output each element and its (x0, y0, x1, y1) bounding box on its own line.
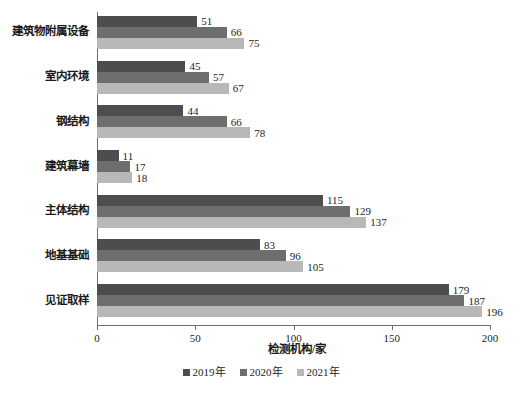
x-axis-title: 检测机构/家 (0, 340, 522, 356)
bar[interactable]: 11 (97, 150, 119, 161)
bar[interactable]: 57 (97, 72, 209, 83)
legend-item[interactable]: 2019年 (183, 366, 226, 378)
bar[interactable]: 17 (97, 161, 130, 172)
bar-value-label: 137 (370, 216, 387, 228)
bar-group: 见证取样179187196 (97, 284, 490, 317)
category-label: 见证取样 (45, 294, 89, 307)
x-tick-mark (195, 325, 196, 330)
bar-value-label: 11 (123, 149, 134, 161)
legend-swatch-icon (297, 369, 304, 376)
bar-value-label: 66 (231, 26, 242, 38)
bar[interactable]: 137 (97, 217, 366, 228)
bar[interactable]: 196 (97, 306, 482, 317)
bar-row: 137 (97, 217, 490, 228)
legend-item[interactable]: 2020年 (240, 366, 283, 378)
bar-value-label: 78 (254, 127, 265, 139)
category-label: 建筑幕墙 (45, 160, 89, 173)
x-tick-mark (294, 325, 295, 330)
bar-group: 钢结构446678 (97, 105, 490, 138)
category-label: 建筑物附属设备 (12, 25, 89, 38)
bar[interactable]: 66 (97, 27, 227, 38)
bar-value-label: 57 (213, 71, 224, 83)
bar-row: 44 (97, 105, 490, 116)
legend-label: 2019年 (193, 366, 226, 378)
bar[interactable]: 96 (97, 250, 286, 261)
bar[interactable]: 75 (97, 38, 244, 49)
bar-value-label: 66 (231, 116, 242, 128)
category-label: 钢结构 (56, 115, 89, 128)
bar-value-label: 51 (201, 15, 212, 27)
bar-row: 67 (97, 83, 490, 94)
bar-value-label: 187 (468, 294, 485, 306)
bar-row: 78 (97, 127, 490, 138)
bar-row: 75 (97, 38, 490, 49)
bar-row: 115 (97, 195, 490, 206)
bar-group: 建筑幕墙111718 (97, 150, 490, 183)
bar-value-label: 83 (264, 239, 275, 251)
bar-row: 66 (97, 27, 490, 38)
x-tick-mark (490, 325, 491, 330)
legend-label: 2021年 (307, 366, 340, 378)
bar-row: 17 (97, 161, 490, 172)
x-tick-mark (392, 325, 393, 330)
bar-value-label: 44 (187, 105, 198, 117)
bar-value-label: 18 (136, 171, 147, 183)
plot-area: 050100150200 建筑物附属设备516675室内环境455767钢结构4… (97, 12, 490, 325)
bar[interactable]: 83 (97, 239, 260, 250)
bar-value-label: 45 (189, 60, 200, 72)
legend-swatch-icon (240, 369, 247, 376)
bar[interactable]: 44 (97, 105, 183, 116)
bar-group: 建筑物附属设备516675 (97, 16, 490, 49)
bar[interactable]: 129 (97, 206, 350, 217)
category-label: 主体结构 (45, 204, 89, 217)
bar[interactable]: 51 (97, 16, 197, 27)
x-axis-title-text: 检测机构/家 (268, 343, 326, 355)
category-label: 地基基础 (45, 249, 89, 262)
bar-value-label: 105 (307, 261, 324, 273)
bar-value-label: 67 (233, 82, 244, 94)
bar[interactable]: 78 (97, 127, 250, 138)
bar-row: 105 (97, 261, 490, 272)
bar[interactable]: 67 (97, 83, 229, 94)
bar-row: 187 (97, 295, 490, 306)
bar-row: 66 (97, 116, 490, 127)
bar-value-label: 115 (327, 194, 343, 206)
bar-row: 179 (97, 284, 490, 295)
bar-value-label: 129 (354, 205, 371, 217)
bar-row: 96 (97, 250, 490, 261)
bar-value-label: 196 (486, 305, 503, 317)
bar-value-label: 75 (248, 37, 259, 49)
category-label: 室内环境 (45, 70, 89, 83)
bar[interactable]: 105 (97, 261, 303, 272)
bar-chart: 050100150200 建筑物附属设备516675室内环境455767钢结构4… (0, 0, 522, 397)
legend-item[interactable]: 2021年 (297, 366, 340, 378)
bar-value-label: 96 (290, 250, 301, 262)
x-tick-mark (97, 325, 98, 330)
bar-row: 51 (97, 16, 490, 27)
bar-group: 地基基础8396105 (97, 239, 490, 272)
legend-swatch-icon (183, 369, 190, 376)
bar-row: 45 (97, 61, 490, 72)
legend-label: 2020年 (250, 366, 283, 378)
bar-row: 11 (97, 150, 490, 161)
bar[interactable]: 66 (97, 116, 227, 127)
bar[interactable]: 45 (97, 61, 185, 72)
bar-row: 196 (97, 306, 490, 317)
bar-row: 18 (97, 172, 490, 183)
bar[interactable]: 179 (97, 284, 449, 295)
chart-legend: 2019年2020年2021年 (0, 366, 522, 378)
bar-row: 57 (97, 72, 490, 83)
bar-value-label: 179 (453, 283, 470, 295)
bar[interactable]: 115 (97, 195, 323, 206)
bar[interactable]: 187 (97, 295, 464, 306)
bar-group: 室内环境455767 (97, 61, 490, 94)
bar-row: 129 (97, 206, 490, 217)
bar-group: 主体结构115129137 (97, 195, 490, 228)
bar[interactable]: 18 (97, 172, 132, 183)
